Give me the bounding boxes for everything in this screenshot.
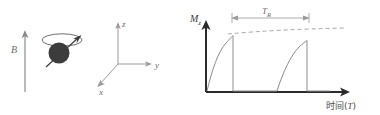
plot-x-axis-label-cjk: 时间( [326,100,348,111]
tr-label: TR [262,6,271,18]
plot-y-axis-label: Mz [189,13,201,27]
plot-y-axis-label-sub: z [197,19,201,27]
panel-mz-plot: Mz 时间(T) TR [189,6,356,111]
x-axis-shaft [100,64,118,84]
z-axis-label: z [121,19,126,29]
x-axis-arrowhead-icon [97,79,105,87]
tr-label-sub: R [266,11,271,18]
y-axis [118,61,152,67]
plot-x-axis-label-close: ) [353,101,357,111]
panel-coordinate-axes: z y x [97,19,159,97]
panel-precession: B [11,30,82,92]
plot-x-axis-label: 时间(T) [326,100,356,111]
spin-sphere-icon [49,43,70,64]
z-axis [115,22,121,64]
field-arrow-icon [22,30,29,92]
figure-canvas: B z y [0,0,380,115]
x-axis-label: x [98,87,103,97]
equilibrium-asymptote-dashed-line [228,28,345,34]
recovery-curve-2 [277,41,307,92]
field-label: B [11,44,17,55]
mri-relaxation-figure: B z y [0,0,380,115]
recovery-curve-1 [207,36,233,92]
y-axis-label: y [154,60,159,70]
x-axis [97,64,118,87]
